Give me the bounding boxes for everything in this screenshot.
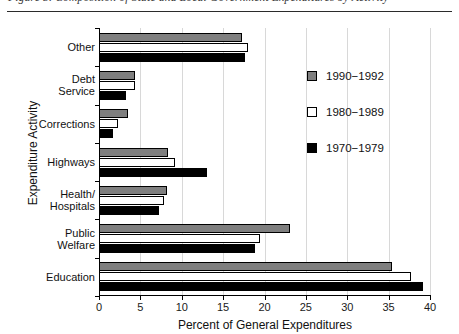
bar: [99, 168, 207, 177]
bar: [99, 129, 113, 138]
bar: [99, 262, 392, 271]
y-axis-tick-label: DebtService: [9, 73, 95, 97]
y-axis-tick-label-line: Education: [9, 271, 95, 283]
x-axis-tick-label: 35: [374, 301, 404, 313]
x-axis-tick-label: 40: [415, 301, 445, 313]
y-axis-tick-label: Health/Hospitals: [9, 188, 95, 212]
y-axis-tick-label-line: Service: [9, 85, 95, 97]
legend-label: 1970−1979: [326, 142, 384, 154]
x-axis-tick: [306, 295, 307, 300]
x-axis-tick: [389, 295, 390, 300]
y-axis-tick-label-line: Corrections: [9, 118, 95, 130]
bar-group: [99, 224, 430, 257]
x-axis-tick-label: 5: [125, 301, 155, 313]
y-axis-tick-label-line: Welfare: [9, 239, 95, 251]
x-axis-tick-label: 25: [291, 301, 321, 313]
y-axis-tick-label-line: Public: [9, 227, 95, 239]
y-axis-tick: [95, 181, 100, 182]
legend: 1990−19921980−19891970−1979: [307, 58, 427, 166]
x-axis-tick: [347, 295, 348, 300]
bar-chart: Expenditure Activity OtherDebtServiceCor…: [0, 16, 459, 334]
horizontal-rule: [7, 11, 452, 12]
y-axis-tick-labels: OtherDebtServiceCorrectionsHighwaysHealt…: [4, 28, 95, 296]
bar: [99, 282, 423, 291]
y-axis-tick-label: Education: [9, 271, 95, 283]
y-axis-tick-label-line: Hospitals: [9, 200, 95, 212]
figure-caption-clipped: Figure 3. Composition of State and Local…: [0, 0, 459, 9]
figure-caption-text: Figure 3. Composition of State and Local…: [0, 0, 459, 3]
bar-group: [99, 186, 430, 219]
y-axis-line: [99, 28, 100, 296]
bar: [99, 53, 245, 62]
y-axis-tick-label: Other: [9, 41, 95, 53]
y-axis-tick-label-line: Debt: [9, 73, 95, 85]
bar: [99, 186, 167, 195]
legend-item[interactable]: 1990−1992: [307, 58, 427, 94]
y-axis-tick: [95, 219, 100, 220]
legend-label: 1990−1992: [326, 70, 384, 82]
y-axis-tick-label-line: Other: [9, 41, 95, 53]
x-axis-tick: [223, 295, 224, 300]
x-axis-tick: [430, 295, 431, 300]
y-axis-tick: [95, 66, 100, 67]
bar: [99, 33, 242, 42]
x-axis-tick: [265, 295, 266, 300]
x-axis-tick-label: 15: [208, 301, 238, 313]
bar-group: [99, 262, 430, 295]
bar: [99, 224, 290, 233]
y-axis-tick-label: Highways: [9, 156, 95, 168]
bar: [99, 196, 164, 205]
bar: [99, 272, 411, 281]
y-axis-tick: [95, 143, 100, 144]
legend-item[interactable]: 1970−1979: [307, 130, 427, 166]
x-axis-tick: [182, 295, 183, 300]
x-axis-title: Percent of General Expenditures: [99, 318, 431, 332]
y-axis-tick: [95, 28, 100, 29]
bar: [99, 244, 255, 253]
bar: [99, 71, 135, 80]
bar: [99, 206, 159, 215]
y-axis-tick-label-line: Health/: [9, 188, 95, 200]
legend-item[interactable]: 1980−1989: [307, 94, 427, 130]
bar: [99, 91, 126, 100]
y-axis-tick: [95, 105, 100, 106]
bar: [99, 158, 175, 167]
legend-label: 1980−1989: [326, 106, 384, 118]
legend-swatch-icon: [307, 107, 317, 117]
y-axis-tick-label: PublicWelfare: [9, 227, 95, 251]
x-axis-tick-label: 30: [332, 301, 362, 313]
bar: [99, 148, 168, 157]
bar: [99, 43, 248, 52]
x-axis-tick-label: 10: [167, 301, 197, 313]
bar: [99, 81, 135, 90]
legend-swatch-icon: [307, 143, 317, 153]
legend-swatch-icon: [307, 71, 317, 81]
bar: [99, 234, 260, 243]
y-axis-tick-label-line: Highways: [9, 156, 95, 168]
x-axis-tick-label: 20: [250, 301, 280, 313]
y-axis-tick: [95, 296, 100, 297]
x-axis-tick: [140, 295, 141, 300]
gridline: [430, 28, 431, 296]
bar: [99, 119, 118, 128]
y-axis-tick: [95, 258, 100, 259]
bar: [99, 109, 128, 118]
x-axis-tick-label: 0: [84, 301, 114, 313]
y-axis-tick-label: Corrections: [9, 118, 95, 130]
